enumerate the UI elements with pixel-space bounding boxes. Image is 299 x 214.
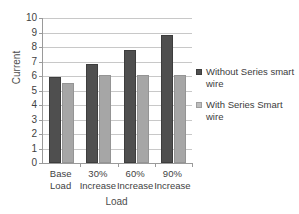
bar xyxy=(174,75,186,163)
x-axis-tick-label: 30% Increase xyxy=(79,168,116,191)
y-axis-tick xyxy=(39,134,43,135)
y-axis-tick-label: 1 xyxy=(31,144,37,154)
x-axis-title: Load xyxy=(42,196,191,207)
bar xyxy=(124,50,136,163)
chart-legend: Without Series smart wireWith Series Sma… xyxy=(196,66,299,132)
legend-label: Without Series smart wire xyxy=(206,66,299,90)
y-axis-tick xyxy=(39,163,43,164)
bar-chart: Current 012345678910 Base Load30% Increa… xyxy=(0,0,299,214)
x-axis-tick-label: 60% Increase xyxy=(117,168,154,191)
plot-area: 012345678910 xyxy=(42,18,192,164)
y-axis-tick xyxy=(39,47,43,48)
y-axis-tick xyxy=(39,76,43,77)
y-axis-tick-label: 9 xyxy=(31,28,37,38)
legend-entry[interactable]: With Series Smart wire xyxy=(196,99,299,123)
legend-swatch-icon xyxy=(196,69,202,75)
legend-swatch-icon xyxy=(196,102,202,108)
x-axis-tick xyxy=(192,163,193,167)
y-axis-tick xyxy=(39,33,43,34)
bar xyxy=(137,75,149,163)
y-axis-tick xyxy=(39,18,43,19)
y-axis-title: Current xyxy=(11,28,22,108)
legend-entry[interactable]: Without Series smart wire xyxy=(196,66,299,90)
bar xyxy=(161,35,173,163)
y-axis-tick-label: 7 xyxy=(31,57,37,67)
y-axis-tick-label: 4 xyxy=(31,100,37,110)
legend-label: With Series Smart wire xyxy=(206,99,299,123)
gridline xyxy=(43,18,192,19)
bar xyxy=(86,64,98,163)
y-axis-tick xyxy=(39,120,43,121)
x-axis-tick-label: Base Load xyxy=(42,168,79,191)
y-axis-tick-label: 6 xyxy=(31,71,37,81)
bar xyxy=(99,75,111,163)
x-axis-tick xyxy=(80,163,81,167)
y-axis-tick xyxy=(39,149,43,150)
y-axis-tick xyxy=(39,105,43,106)
y-axis-tick-label: 8 xyxy=(31,42,37,52)
x-axis-tick xyxy=(118,163,119,167)
bar xyxy=(49,77,61,163)
y-axis-tick-label: 10 xyxy=(26,13,37,23)
x-axis-tick xyxy=(155,163,156,167)
y-axis-tick-label: 2 xyxy=(31,129,37,139)
gridline xyxy=(43,33,192,34)
y-axis-tick xyxy=(39,91,43,92)
y-axis-tick xyxy=(39,62,43,63)
y-axis-tick-label: 5 xyxy=(31,86,37,96)
x-axis-tick-label: 90% Increase xyxy=(154,168,191,191)
y-axis-tick-label: 0 xyxy=(31,158,37,168)
y-axis-tick-label: 3 xyxy=(31,115,37,125)
bar xyxy=(62,83,74,163)
